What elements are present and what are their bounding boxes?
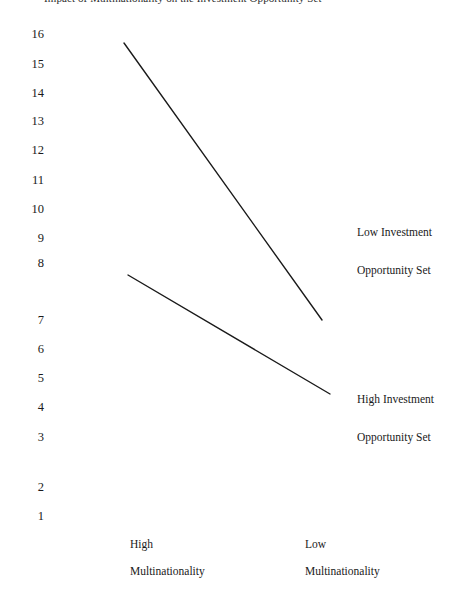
x-axis-category-sublabel: Multinationality [130,565,205,578]
series-line [128,275,330,394]
series-sublabel: Opportunity Set [357,264,431,277]
x-axis-category-label: High [130,538,153,551]
y-axis-tick: 4 [0,401,44,413]
y-axis-tick: 1 [0,510,44,522]
chart-title-clipped: Impact of Multinationality on the Invest… [0,0,468,7]
series-sublabel: Opportunity Set [357,431,431,444]
y-axis-tick: 12 [0,144,44,156]
y-axis-tick: 3 [0,431,44,443]
y-axis-tick: 13 [0,115,44,127]
y-axis-tick: 8 [0,257,44,269]
y-axis-tick: 2 [0,481,44,493]
y-axis-tick: 7 [0,314,44,326]
y-axis-tick: 11 [0,174,44,186]
series-label: Low Investment [357,226,432,239]
y-axis-tick: 15 [0,58,44,70]
series-lines [124,43,330,394]
y-axis-tick: 5 [0,372,44,384]
plot-area [0,0,468,589]
y-axis-tick: 14 [0,87,44,99]
x-axis-category-sublabel: Multinationality [305,565,380,578]
y-axis-tick: 9 [0,232,44,244]
y-axis-tick: 10 [0,203,44,215]
series-line [124,43,322,320]
chart-container: Impact of Multinationality on the Invest… [0,0,468,589]
series-label: High Investment [357,393,434,406]
y-axis-tick: 6 [0,343,44,355]
y-axis-tick: 16 [0,28,44,40]
x-axis-category-label: Low [305,538,326,551]
chart-title: Impact of Multinationality on the Invest… [0,0,468,7]
